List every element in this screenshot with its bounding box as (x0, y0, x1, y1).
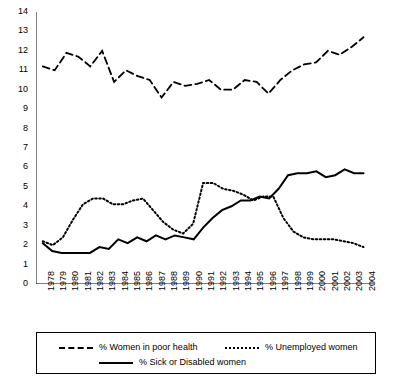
legend-sample-0 (59, 347, 93, 349)
x-tick-label: 1979 (59, 271, 68, 291)
x-tick-label: 1996 (269, 271, 278, 291)
y-tick-label: 13 (0, 26, 28, 35)
y-tick-label: 4 (0, 201, 28, 210)
y-tick-label: 14 (0, 7, 28, 16)
legend-label-0: % Women in poor health (99, 342, 197, 352)
x-tick-label: 1990 (195, 271, 204, 291)
x-tick-label: 1983 (108, 271, 117, 291)
legend-sample-2 (99, 362, 133, 364)
x-tick-label: 2004 (368, 271, 377, 291)
y-tick-label: 11 (0, 65, 28, 74)
plot-area (36, 12, 374, 284)
y-tick-label: 8 (0, 124, 28, 133)
x-tick-label: 1989 (182, 271, 191, 291)
y-tick-label: 10 (0, 85, 28, 94)
x-tick-label: 1991 (207, 271, 216, 291)
y-tick-label: 9 (0, 104, 28, 113)
x-tick-label: 1995 (256, 271, 265, 291)
chart-legend: % Women in poor health% Unemployed women… (36, 332, 376, 374)
x-tick-label: 1982 (96, 271, 105, 291)
x-tick-label: 2001 (331, 271, 340, 291)
x-tick-label: 1984 (121, 271, 130, 291)
x-tick-label: 1992 (219, 271, 228, 291)
x-tick-label: 1986 (145, 271, 154, 291)
x-tick-label: 1987 (158, 271, 167, 291)
series-line-2 (43, 169, 364, 253)
legend-label-2: % Sick or Disabled women (139, 357, 246, 367)
y-tick-label: 7 (0, 143, 28, 152)
x-tick-label: 1985 (133, 271, 142, 291)
y-tick-label: 5 (0, 182, 28, 191)
x-tick-label: 2000 (318, 271, 327, 291)
x-tick-label: 1981 (84, 271, 93, 291)
series-line-1 (43, 183, 364, 247)
x-tick-label: 1999 (306, 271, 315, 291)
y-tick-label: 3 (0, 221, 28, 230)
x-tick-label: 2003 (355, 271, 364, 291)
y-tick-label: 2 (0, 240, 28, 249)
x-tick-label: 1988 (170, 271, 179, 291)
x-tick-label: 1980 (71, 271, 80, 291)
chart-figure: 01234567891011121314 1978197919801981198… (0, 0, 411, 377)
x-tick-label: 1997 (281, 271, 290, 291)
x-tick-label: 1998 (294, 271, 303, 291)
x-tick-label: 1978 (47, 271, 56, 291)
y-tick-label: 0 (0, 279, 28, 288)
x-tick-label: 2002 (343, 271, 352, 291)
y-tick-label: 6 (0, 162, 28, 171)
y-tick-label: 1 (0, 260, 28, 269)
y-tick-label: 12 (0, 46, 28, 55)
x-tick-label: 1993 (232, 271, 241, 291)
legend-sample-1 (225, 347, 259, 349)
legend-label-1: % Unemployed women (265, 342, 358, 352)
series-line-0 (43, 37, 364, 97)
x-tick-label: 1994 (244, 271, 253, 291)
chart-svg (36, 12, 374, 284)
